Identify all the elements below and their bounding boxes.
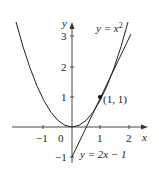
tick-label-y-neg1: −1 [55,151,67,163]
y-axis-label: y [61,17,67,29]
point-label: (1, 1) [103,93,127,106]
tick-label-y-3: 3 [61,30,67,42]
tick-label-y-2: 2 [61,61,67,73]
tick-label-x-0: 0 [58,132,64,144]
tick-label-x-neg1: −1 [36,132,48,144]
x-axis-label: x [141,131,147,143]
tangent-point [98,95,102,99]
tick-label-y-1: 1 [61,91,67,103]
x-axis-arrow-icon [141,125,148,130]
tick-label-x-1: 1 [97,132,103,144]
curve-label: y = x2 [95,21,123,34]
line-label: y = 2x − 1 [79,148,127,160]
tick-label-x-2: 2 [126,132,132,144]
y-axis-arrow-icon [70,22,75,29]
tangent-line-diagram: −1 0 1 2 x 3 2 1 −1 y y = x2 (1, 1) y = … [0,0,159,172]
